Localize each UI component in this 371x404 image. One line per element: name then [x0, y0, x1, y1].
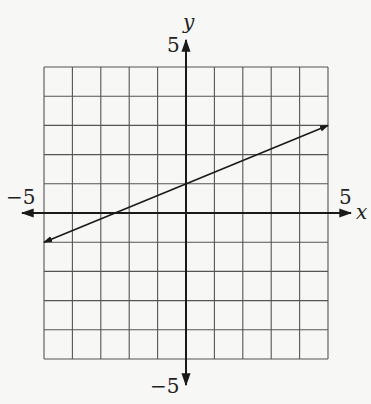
axes: [22, 40, 351, 385]
y-min-tick-label: −5: [150, 374, 179, 398]
coordinate-plane: y 5 −5 5 x −5: [0, 0, 371, 404]
x-min-tick-label: −5: [6, 185, 35, 209]
x-max-tick-label: 5: [339, 185, 352, 209]
y-max-tick-label: 5: [167, 33, 180, 57]
y-axis-label: y: [182, 10, 195, 34]
x-axis-label: x: [356, 200, 367, 224]
